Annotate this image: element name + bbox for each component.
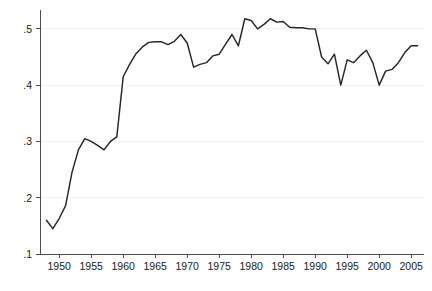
chart-container: .1.2.3.4.5 19501955196019651970197519801… xyxy=(0,0,432,291)
x-tick-label-7: 1985 xyxy=(272,260,296,272)
x-tick-label-4: 1970 xyxy=(176,260,200,272)
x-tick-label-0: 1950 xyxy=(48,260,72,272)
x-tick-label-9: 1995 xyxy=(336,260,360,272)
y-tick-label-0: .1 xyxy=(23,248,32,260)
x-tick-label-2: 1960 xyxy=(112,260,136,272)
y-tick-label-2: .3 xyxy=(23,135,32,147)
x-tick-label-8: 1990 xyxy=(304,260,328,272)
x-tick-label-6: 1980 xyxy=(240,260,264,272)
chart-background xyxy=(0,0,432,291)
x-tick-label-5: 1975 xyxy=(208,260,232,272)
x-tick-label-3: 1965 xyxy=(144,260,168,272)
y-tick-label-3: .4 xyxy=(23,79,32,91)
y-tick-label-4: .5 xyxy=(23,23,32,35)
x-tick-label-1: 1955 xyxy=(80,260,104,272)
x-tick-label-11: 2005 xyxy=(400,260,424,272)
line-chart: .1.2.3.4.5 19501955196019651970197519801… xyxy=(0,0,432,291)
x-tick-label-10: 2000 xyxy=(368,260,392,272)
y-tick-label-1: .2 xyxy=(23,192,32,204)
